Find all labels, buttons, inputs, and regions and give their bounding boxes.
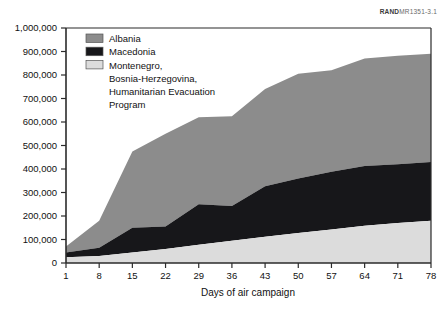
x-tick-label: 78 xyxy=(426,270,437,281)
x-tick-label: 15 xyxy=(127,270,138,281)
y-tick-label: 200,000 xyxy=(23,210,57,221)
x-tick-label: 8 xyxy=(97,270,102,281)
y-axis-ticks: 0100,000200,000300,000400,000500,000600,… xyxy=(15,22,66,268)
y-tick-label: 400,000 xyxy=(23,163,57,174)
rand-number-text: MR1351-3.1 xyxy=(399,8,437,15)
x-tick-label: 43 xyxy=(260,270,271,281)
legend-swatch xyxy=(86,47,103,56)
legend-swatch xyxy=(86,60,103,69)
legend-label: Montenegro, xyxy=(109,60,162,71)
x-axis-ticks: 1815222936435057647178 xyxy=(63,263,436,281)
x-tick-label: 29 xyxy=(193,270,204,281)
y-tick-label: 300,000 xyxy=(23,187,57,198)
legend-label: Humanitarian Evacuation xyxy=(109,86,215,97)
x-axis-title: Days of air campaign xyxy=(201,287,295,298)
legend-label: Program xyxy=(109,99,146,110)
legend-label: Bosnia-Herzegovina, xyxy=(109,73,197,84)
y-tick-label: 0 xyxy=(52,257,57,268)
rand-source-label: RANDMR1351-3.1 xyxy=(380,8,437,15)
legend-label: Macedonia xyxy=(109,46,156,57)
x-tick-label: 71 xyxy=(393,270,404,281)
x-tick-label: 36 xyxy=(227,270,238,281)
x-tick-label: 57 xyxy=(326,270,337,281)
y-tick-label: 600,000 xyxy=(23,116,57,127)
legend-swatch xyxy=(86,34,103,43)
y-tick-label: 800,000 xyxy=(23,69,57,80)
x-tick-label: 22 xyxy=(160,270,171,281)
figure-container: RANDMR1351-3.1 0100,000200,000300,000400… xyxy=(0,0,443,311)
y-tick-label: 500,000 xyxy=(23,140,57,151)
x-tick-label: 1 xyxy=(63,270,68,281)
x-tick-label: 50 xyxy=(293,270,304,281)
y-tick-label: 700,000 xyxy=(23,93,57,104)
stacked-area-chart: 0100,000200,000300,000400,000500,000600,… xyxy=(0,0,443,311)
rand-prefix-text: RAND xyxy=(380,8,400,15)
legend-label: Albania xyxy=(109,33,141,44)
y-tick-label: 100,000 xyxy=(23,234,57,245)
x-tick-label: 64 xyxy=(359,270,370,281)
y-tick-label: 900,000 xyxy=(23,46,57,57)
y-tick-label: 1,000,000 xyxy=(15,22,57,33)
